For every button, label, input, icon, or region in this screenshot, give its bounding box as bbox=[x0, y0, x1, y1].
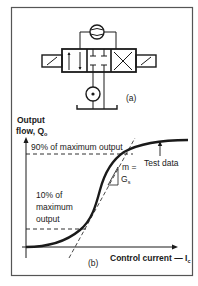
valve-schematic bbox=[42, 25, 156, 109]
slope-triangle bbox=[108, 167, 118, 185]
slope-label-line1: m = bbox=[122, 162, 136, 172]
annotation-10-line3: output bbox=[36, 214, 60, 224]
slope-label-line2: Gs bbox=[121, 174, 131, 185]
tank-icon bbox=[77, 105, 117, 109]
tangent-line bbox=[69, 138, 135, 258]
panel-b-label: (b) bbox=[88, 258, 99, 268]
pump-icon bbox=[86, 72, 104, 109]
annotation-10-line1: 10% of bbox=[36, 190, 63, 200]
solenoid-right-icon bbox=[136, 55, 156, 67]
x-axis-label: Control current — Ic bbox=[110, 253, 191, 264]
solenoid-left-icon bbox=[42, 55, 62, 67]
y-axis-label-line2: flow, Qo bbox=[16, 126, 48, 137]
annotation-90: 90% of maximum output bbox=[31, 142, 123, 152]
pressure-gauge-icon bbox=[80, 25, 116, 49]
annotation-10-line2: maximum bbox=[36, 202, 73, 212]
valve-body-icon bbox=[62, 49, 136, 72]
y-axis-label-line1: Output bbox=[17, 115, 45, 125]
figure: (a) Output flow, Qo 90% of maximum outpu… bbox=[0, 0, 198, 286]
annotation-test-data: Test data bbox=[144, 158, 179, 168]
panel-a-label: (a) bbox=[126, 93, 137, 103]
flow-current-graph: Output flow, Qo 90% of maximum output 10… bbox=[16, 115, 191, 268]
